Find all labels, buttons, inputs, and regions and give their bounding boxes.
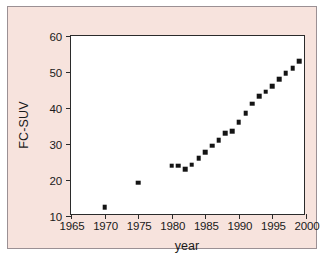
x-tick-label-1990: 1990 <box>227 220 252 232</box>
y-tick-label-20: 20 <box>50 175 62 187</box>
x-tick-1995: 1995 <box>272 214 273 219</box>
y-tick-50: 50 <box>66 72 71 73</box>
x-tick-label-1980: 1980 <box>160 220 185 232</box>
chart-panel: FC-SUV year 102030405060 196519701975198… <box>7 6 317 249</box>
x-tick-1965: 1965 <box>71 214 72 219</box>
x-tick-1980: 1980 <box>172 214 173 219</box>
data-point <box>263 90 268 95</box>
data-point <box>290 66 295 71</box>
data-point <box>176 163 181 168</box>
y-tick-label-50: 50 <box>50 67 62 79</box>
data-point <box>257 94 262 99</box>
x-tick-label-1995: 1995 <box>261 220 286 232</box>
x-tick-2000: 2000 <box>306 214 307 219</box>
data-point <box>196 156 201 161</box>
y-axis-label: FC-SUV <box>17 101 31 149</box>
x-tick-1990: 1990 <box>239 214 240 219</box>
data-point <box>183 167 188 172</box>
data-point <box>203 150 208 155</box>
data-point <box>136 181 141 186</box>
y-tick-label-40: 40 <box>50 103 62 115</box>
data-point <box>190 162 195 167</box>
data-point <box>169 163 174 168</box>
y-tick-60: 60 <box>66 36 71 37</box>
x-tick-label-1970: 1970 <box>93 220 118 232</box>
x-tick-1975: 1975 <box>138 214 139 219</box>
data-point <box>237 120 242 125</box>
plot-area: 102030405060 196519701975198019851990199… <box>70 35 305 215</box>
data-point <box>277 77 282 82</box>
data-point <box>250 101 255 106</box>
x-tick-label-1975: 1975 <box>127 220 152 232</box>
x-tick-1970: 1970 <box>105 214 106 219</box>
data-point <box>210 144 215 149</box>
x-axis-label: year <box>175 239 199 253</box>
data-point <box>284 71 289 76</box>
x-tick-label-2000: 2000 <box>295 220 320 232</box>
x-tick-label-1985: 1985 <box>194 220 219 232</box>
y-tick-label-60: 60 <box>50 31 62 43</box>
data-point <box>243 111 248 116</box>
y-tick-30: 30 <box>66 144 71 145</box>
x-tick-1985: 1985 <box>205 214 206 219</box>
data-point <box>270 84 275 89</box>
data-point <box>223 131 228 136</box>
y-tick-label-30: 30 <box>50 139 62 151</box>
data-point <box>216 138 221 143</box>
data-point <box>102 205 107 210</box>
data-point <box>230 129 235 134</box>
y-tick-20: 20 <box>66 180 71 181</box>
x-tick-label-1965: 1965 <box>60 220 85 232</box>
figure: FC-SUV year 102030405060 196519701975198… <box>0 0 325 264</box>
y-tick-40: 40 <box>66 108 71 109</box>
data-point <box>297 59 302 64</box>
